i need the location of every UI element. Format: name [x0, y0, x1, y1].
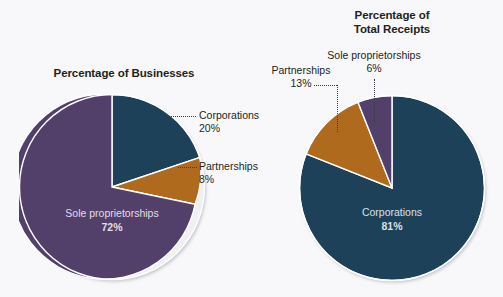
inner-label-sole-proprietorships-left: Sole proprietorships 72%	[22, 207, 202, 234]
inner-label-sole-proprietorships-left-value: 72%	[22, 221, 202, 235]
right-chart-title: Percentage of Total Receipts	[327, 8, 457, 36]
callout-sole-proprietorships-right: Sole proprietorships 6%	[305, 49, 443, 75]
callout-partnerships-left-value: 8%	[199, 173, 258, 186]
leader-line-corporations-left	[171, 116, 196, 117]
inner-label-corporations-right-value: 81%	[312, 220, 472, 234]
callout-sole-proprietorships-right-name: Sole proprietorships	[327, 49, 420, 61]
leader-line-partnerships-left	[178, 167, 197, 168]
callout-corporations-left-name: Corporations	[199, 109, 259, 121]
figure-canvas: Percentage of Businesses Corporations 20…	[0, 0, 503, 297]
callout-corporations-left: Corporations 20%	[199, 109, 259, 135]
left-chart-title: Percentage of Businesses	[24, 66, 224, 80]
inner-label-corporations-right-name: Corporations	[362, 206, 422, 218]
pie-svg-receipts	[299, 95, 489, 287]
callout-partnerships-right-value: 13%	[264, 77, 338, 90]
callout-partnerships-left-name: Partnerships	[199, 160, 258, 172]
inner-label-corporations-right: Corporations 81%	[312, 206, 472, 233]
callout-corporations-left-value: 20%	[199, 122, 259, 135]
inner-label-sole-proprietorships-left-name: Sole proprietorships	[65, 207, 158, 219]
pie-chart-percentage-of-businesses	[19, 94, 209, 286]
pie-svg-businesses	[19, 94, 209, 286]
leader-line-partnerships-right-vertical	[337, 85, 338, 132]
leader-line-sole-proprietorships-right	[374, 79, 375, 123]
callout-partnerships-left: Partnerships 8%	[199, 160, 258, 186]
pie-chart-percentage-of-total-receipts	[299, 95, 489, 287]
callout-sole-proprietorships-right-value: 6%	[305, 62, 443, 75]
